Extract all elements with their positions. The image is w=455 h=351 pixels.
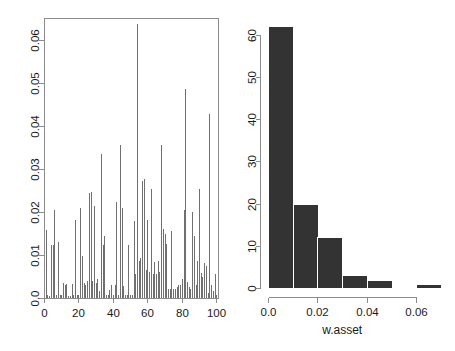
- histogram-bar: [368, 281, 393, 289]
- y-tick-label: 50: [246, 71, 258, 84]
- x-tick-label: 0.0: [261, 306, 277, 318]
- y-tick-label: 0.05: [29, 72, 41, 94]
- x-tick-label: 0.06: [405, 306, 427, 318]
- y-axis-right: 0102030405060: [246, 29, 261, 292]
- histogram-svg: 01020304050600.00.020.040.06w.asset: [228, 0, 455, 351]
- y-tick-label: 10: [246, 240, 258, 253]
- y-tick-label: 0.03: [29, 158, 41, 180]
- spike-plot-svg: 0.00.010.020.030.040.050.06020406080100: [0, 0, 228, 351]
- spike-series: [47, 24, 217, 298]
- y-tick-label: 30: [246, 155, 258, 168]
- x-tick-label: 0: [41, 307, 47, 319]
- y-tick-label: 0.06: [29, 29, 41, 51]
- histogram-bars: [269, 27, 442, 289]
- y-tick-label: 0.0: [29, 291, 41, 307]
- x-axis-right: 0.00.020.040.06: [261, 298, 428, 318]
- x-tick-label: 0.02: [306, 306, 328, 318]
- x-tick-label: 20: [72, 307, 85, 319]
- y-tick-label: 0.02: [29, 201, 41, 223]
- histogram-bar: [343, 276, 368, 289]
- x-tick-label: 0.04: [356, 306, 379, 318]
- x-axis-left: 020406080100: [41, 298, 226, 319]
- x-tick-label: 40: [107, 307, 120, 319]
- y-tick-label: 20: [246, 198, 258, 211]
- y-axis-left: 0.00.010.020.030.040.050.06: [29, 29, 44, 306]
- y-tick-label: 0.04: [29, 115, 41, 138]
- x-axis-title: w.asset: [321, 323, 363, 337]
- histogram-bar: [417, 285, 442, 289]
- x-tick-label: 60: [141, 307, 154, 319]
- histogram-bar: [294, 205, 319, 289]
- histogram-bar: [318, 238, 343, 289]
- y-tick-label: 60: [246, 29, 258, 42]
- x-tick-label: 80: [176, 307, 189, 319]
- figure-canvas: 0.00.010.020.030.040.050.06020406080100 …: [0, 0, 455, 351]
- y-tick-label: 0: [246, 285, 258, 291]
- histogram-bar: [269, 27, 294, 289]
- x-tick-label: 100: [207, 307, 226, 319]
- left-panel-spike-plot: 0.00.010.020.030.040.050.06020406080100: [0, 0, 228, 351]
- y-tick-label: 40: [246, 113, 258, 126]
- y-tick-label: 0.01: [29, 244, 41, 266]
- right-panel-histogram: 01020304050600.00.020.040.06w.asset: [228, 0, 455, 351]
